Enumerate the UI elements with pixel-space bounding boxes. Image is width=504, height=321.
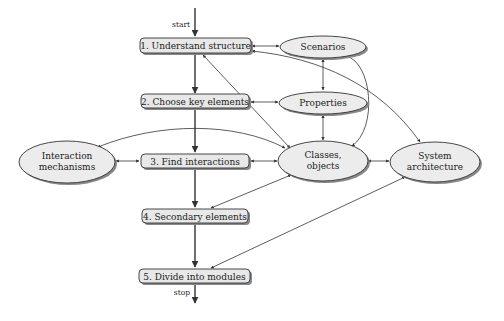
step-2-label: 2. Choose key elements [141,97,249,107]
step-3-label: 3. Find interactions [150,157,240,167]
step-1-label: 1. Understand structure [140,41,251,51]
system-label-line1: System [418,151,452,161]
step-5-label: 5. Divide into modules [143,272,246,282]
interaction-label-line1: Interaction [42,151,93,161]
edge-classes-step4 [211,175,291,208]
step-box-3[interactable]: 3. Find interactions [141,154,251,170]
concept-scenarios[interactable]: Scenarios [280,36,368,60]
step-box-5[interactable]: 5. Divide into modules [139,269,252,285]
step-box-4[interactable]: 4. Secondary elements [142,209,250,225]
properties-label: Properties [299,98,347,108]
interaction-label-line2: mechanisms [39,162,96,172]
concept-classes-objects[interactable]: Classes, objects [278,141,370,183]
step-4-label: 4. Secondary elements [143,212,247,222]
scenarios-label: Scenarios [301,42,346,52]
edge-interaction-classes [98,128,285,148]
flow-diagram: start stop 1. Understand structure 2. Ch… [0,0,504,321]
stop-label: stop [174,288,190,297]
step-box-1[interactable]: 1. Understand structure [140,38,253,55]
concept-interaction-mechanisms[interactable]: Interaction mechanisms [19,141,117,185]
concept-properties[interactable]: Properties [279,92,369,116]
step-box-2[interactable]: 2. Choose key elements [141,94,251,110]
system-label-line2: architecture [407,162,463,172]
start-label: start [172,20,190,29]
classes-label-line1: Classes, [304,150,341,160]
classes-label-line2: objects [307,161,340,171]
